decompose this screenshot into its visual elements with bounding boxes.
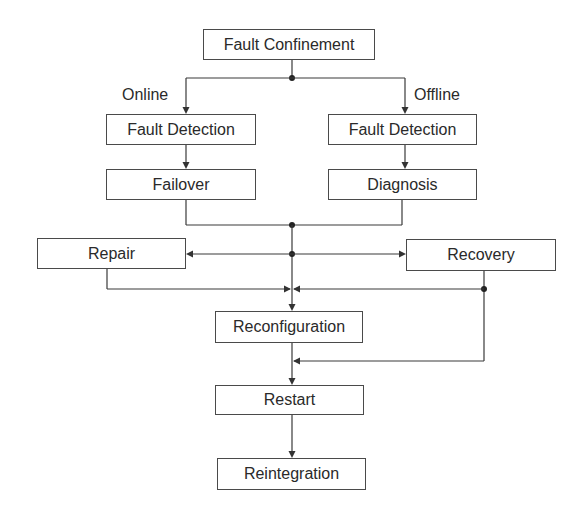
arrow-head (402, 162, 409, 169)
node-reconfiguration: Reconfiguration (215, 311, 363, 343)
node-label: Failover (153, 176, 210, 194)
node-label: Diagnosis (367, 176, 437, 194)
arrow-head (293, 358, 300, 365)
node-label: Recovery (447, 246, 515, 264)
arrow-head (402, 107, 409, 114)
edge-label-offline: Offline (414, 86, 460, 104)
arrow-head (183, 107, 190, 114)
arrow-head (289, 451, 296, 458)
node-label: Reintegration (244, 465, 339, 483)
arrow-head (289, 304, 296, 311)
node-fault-confinement: Fault Confinement (203, 29, 375, 60)
arrow-head (183, 162, 190, 169)
node-reintegration: Reintegration (217, 458, 366, 490)
node-label: Fault Detection (127, 121, 235, 139)
node-restart: Restart (215, 385, 364, 415)
edge-label-online: Online (122, 86, 168, 104)
node-label: Restart (264, 391, 316, 409)
node-fault-detection-offline: Fault Detection (328, 114, 477, 145)
node-label: Fault Detection (349, 121, 457, 139)
node-label: Fault Confinement (224, 36, 355, 54)
node-failover: Failover (106, 169, 256, 200)
node-repair: Repair (37, 238, 186, 269)
arrow-head (284, 286, 291, 293)
fault-handling-flowchart: Fault Confinement Online Offline Fault D… (0, 0, 586, 518)
arrow-head (399, 251, 406, 258)
node-label: Repair (88, 245, 135, 263)
arrow-head (293, 286, 300, 293)
node-diagnosis: Diagnosis (328, 169, 477, 200)
node-fault-detection-online: Fault Detection (106, 114, 256, 145)
arrow-head (289, 378, 296, 385)
node-label: Reconfiguration (233, 318, 345, 336)
node-recovery: Recovery (406, 239, 556, 271)
arrow-head (186, 251, 193, 258)
